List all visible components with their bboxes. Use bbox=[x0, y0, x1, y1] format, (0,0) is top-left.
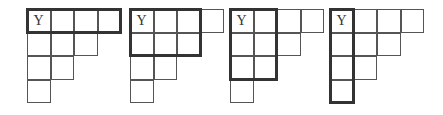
diagram-cell bbox=[201, 9, 225, 33]
diagram-cell bbox=[154, 56, 178, 80]
diagram-cell bbox=[354, 33, 378, 57]
diagram-cell bbox=[230, 80, 254, 104]
highlight-rectangle bbox=[129, 8, 202, 57]
diagram-cell bbox=[377, 9, 401, 33]
diagram-cell bbox=[301, 9, 325, 33]
diagram-cell bbox=[27, 80, 51, 104]
diagram-cell bbox=[27, 56, 51, 80]
diagram-cell bbox=[51, 33, 75, 57]
diagram-cell bbox=[401, 9, 425, 33]
diagram-cell bbox=[277, 33, 301, 57]
diagram-cell bbox=[354, 9, 378, 33]
diagram-cell bbox=[27, 33, 51, 57]
highlight-rectangle bbox=[329, 8, 355, 104]
diagram-cell bbox=[130, 56, 154, 80]
diagram-cell bbox=[377, 33, 401, 57]
diagram-cell bbox=[130, 80, 154, 104]
diagram-cell bbox=[74, 33, 98, 57]
diagram-cell bbox=[51, 56, 75, 80]
diagram-cell bbox=[354, 56, 378, 80]
diagram-cell bbox=[277, 9, 301, 33]
highlight-rectangle bbox=[229, 8, 278, 81]
highlight-rectangle bbox=[26, 8, 122, 34]
